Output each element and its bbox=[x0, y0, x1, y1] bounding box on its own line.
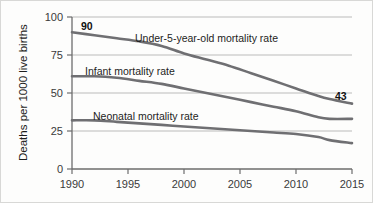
annotation-end-value: 43 bbox=[335, 90, 347, 102]
chart-figure: 100 75 50 25 0 1990 1995 2000 2005 2010 … bbox=[0, 0, 373, 203]
xtick-label-1990: 1990 bbox=[60, 178, 84, 190]
line-chart: 100 75 50 25 0 1990 1995 2000 2005 2010 … bbox=[1, 1, 372, 202]
y-axis-title: Deaths per 1000 live births bbox=[17, 24, 29, 161]
xtick-label-2000: 2000 bbox=[172, 178, 196, 190]
series-label-infant: Infant mortality rate bbox=[85, 65, 175, 77]
series-line-neonatal bbox=[72, 120, 352, 143]
xtick-label-2005: 2005 bbox=[228, 178, 252, 190]
xtick-label-2015: 2015 bbox=[340, 178, 364, 190]
xtick-label-1995: 1995 bbox=[116, 178, 140, 190]
ytick-label-75: 75 bbox=[51, 49, 63, 61]
ytick-label-0: 0 bbox=[57, 163, 63, 175]
ytick-label-25: 25 bbox=[51, 125, 63, 137]
xtick-label-2010: 2010 bbox=[284, 178, 308, 190]
ytick-label-50: 50 bbox=[51, 87, 63, 99]
series-label-neonatal: Neonatal mortality rate bbox=[93, 110, 199, 122]
series-label-under5: Under-5-year-old mortality rate bbox=[135, 32, 278, 44]
ytick-label-100: 100 bbox=[45, 11, 63, 23]
annotation-start-value: 90 bbox=[81, 20, 93, 32]
